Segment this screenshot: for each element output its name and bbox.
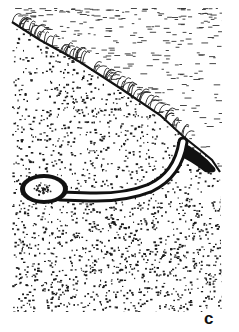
soil-region (12, 20, 224, 313)
illustration-canvas (0, 0, 239, 332)
panel-label: c (204, 310, 213, 327)
burrow-illustration: c (0, 0, 239, 332)
